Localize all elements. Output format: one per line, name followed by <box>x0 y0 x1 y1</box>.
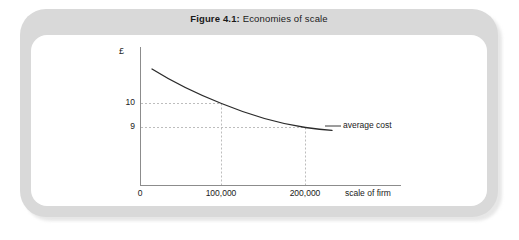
x-tick-label-100000: 100,000 <box>196 188 246 198</box>
y-tick-label-10: 10 <box>106 97 135 107</box>
x-tick-label-0: 0 <box>133 188 147 198</box>
y-tick-label-9: 9 <box>106 121 135 131</box>
series-label-average-cost: average cost <box>343 120 392 130</box>
figure-container: Figure 4.1: Economies of scale £ 10 9 0 … <box>0 0 519 240</box>
x-tick-label-200000: 200,000 <box>280 188 330 198</box>
chart-canvas <box>0 0 519 240</box>
y-axis-label: £ <box>119 46 124 56</box>
x-axis-label: scale of firm <box>345 188 391 198</box>
average-cost-curve <box>152 69 332 130</box>
